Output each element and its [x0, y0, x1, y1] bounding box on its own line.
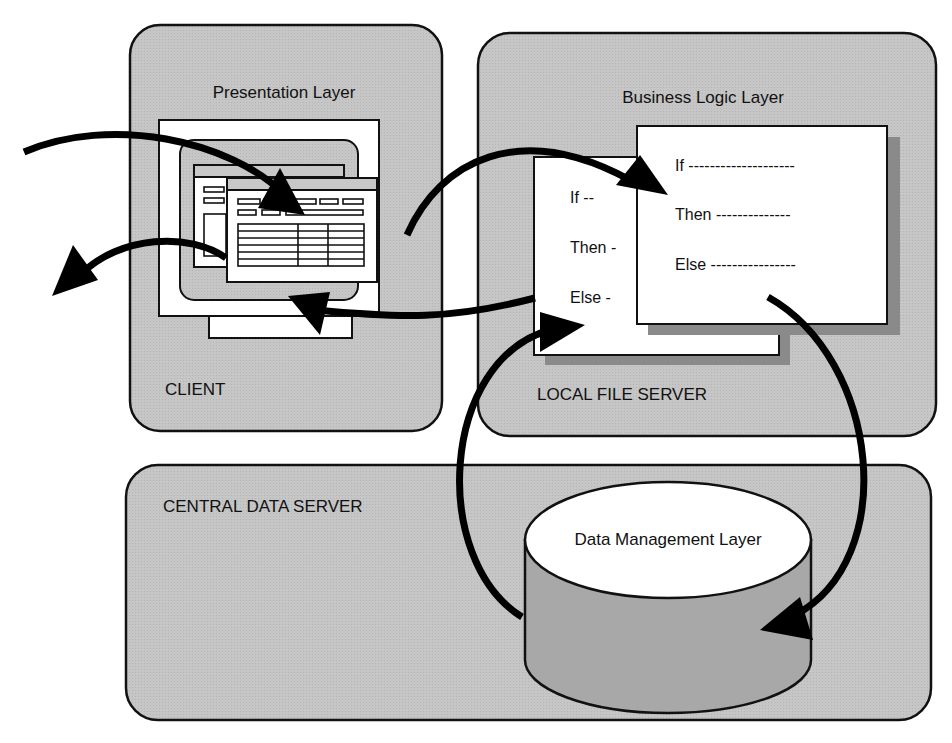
back-doc-then: Then -: [570, 239, 616, 256]
presentation-layer-title: Presentation Layer: [213, 83, 356, 102]
central-data-server-label: CENTRAL DATA SERVER: [163, 497, 363, 516]
local-file-server-label: LOCAL FILE SERVER: [537, 385, 707, 404]
front-doc-if: If --------------------: [675, 157, 795, 174]
data-management-layer-label: Data Management Layer: [574, 530, 761, 549]
client-panel: Presentation Layer CLIENT: [130, 25, 442, 431]
database-cylinder-icon: Data Management Layer: [525, 482, 811, 713]
front-doc-then: Then --------------: [675, 206, 791, 223]
back-doc-else: Else -: [570, 289, 611, 306]
local-file-server-panel: Business Logic Layer LOCAL FILE SERVER I…: [478, 33, 936, 436]
client-label: CLIENT: [165, 380, 225, 399]
business-logic-layer-title: Business Logic Layer: [622, 88, 784, 107]
three-tier-architecture-diagram: CENTRAL DATA SERVER Presentation Layer C…: [0, 0, 952, 743]
back-doc-if: If --: [570, 189, 594, 206]
arrowhead-out-left: [52, 245, 98, 296]
front-doc-else: Else ----------------: [675, 256, 796, 273]
rule-document-front: If -------------------- Then -----------…: [637, 126, 900, 335]
computer-monitor-icon: [159, 120, 379, 338]
